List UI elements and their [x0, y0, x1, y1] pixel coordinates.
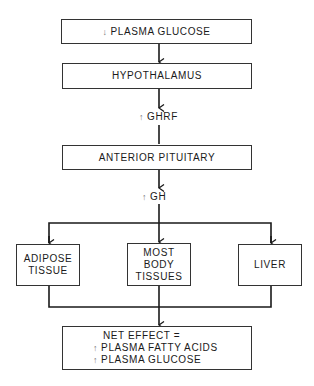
most-body-line3: TISSUES: [136, 271, 183, 283]
net-effect-item-glucose: ↑PLASMA GLUCOSE: [93, 354, 201, 366]
adipose-tissue-box: ADIPOSE TISSUE: [16, 244, 80, 286]
up-arrow-icon: ↑: [139, 112, 144, 122]
net-effect-box: NET EFFECT = ↑PLASMA FATTY ACIDS ↑PLASMA…: [62, 326, 252, 370]
most-body-line2: BODY: [144, 259, 175, 271]
plasma-glucose-box: ↓PLASMA GLUCOSE: [61, 19, 252, 44]
adipose-line1: ADIPOSE: [24, 253, 73, 265]
most-body-tissues-box: MOST BODY TISSUES: [127, 243, 191, 286]
liver-box: LIVER: [238, 244, 302, 286]
hypothalamus-label: HYPOTHALAMUS: [112, 70, 202, 82]
up-arrow-icon: ↑: [93, 343, 98, 353]
gh-text: GH: [150, 191, 166, 202]
hypothalamus-box: HYPOTHALAMUS: [62, 63, 252, 89]
fatty-acids-text: PLASMA FATTY ACIDS: [101, 342, 218, 353]
net-effect-title: NET EFFECT =: [93, 330, 180, 342]
anterior-pituitary-label: ANTERIOR PITUITARY: [99, 152, 216, 164]
ghrf-label: ↑GHRF: [139, 111, 178, 122]
up-arrow-icon: ↑: [142, 192, 147, 202]
up-arrow-icon: ↑: [93, 355, 98, 365]
liver-label: LIVER: [254, 259, 286, 271]
net-effect-item-fatty-acids: ↑PLASMA FATTY ACIDS: [93, 342, 218, 354]
most-body-line1: MOST: [143, 247, 174, 259]
ghrf-text: GHRF: [147, 111, 178, 122]
gh-label: ↑GH: [142, 191, 166, 202]
adipose-line2: TISSUE: [28, 265, 68, 277]
down-arrow-icon: ↓: [102, 27, 107, 37]
glucose-text: PLASMA GLUCOSE: [101, 354, 201, 365]
anterior-pituitary-box: ANTERIOR PITUITARY: [62, 145, 252, 170]
plasma-glucose-label: PLASMA GLUCOSE: [111, 26, 211, 37]
